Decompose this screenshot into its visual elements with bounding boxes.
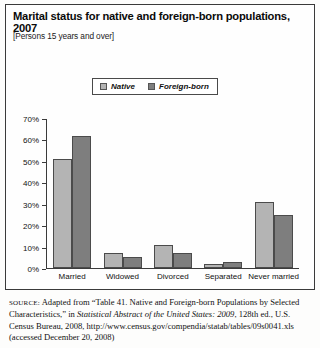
legend-label-foreign-born: Foreign-born [159, 82, 209, 91]
y-axis-tick-label: 0% [27, 265, 39, 274]
y-axis-tick-mark [42, 226, 46, 227]
bar-group [198, 119, 248, 268]
legend-swatch-icon [148, 83, 155, 90]
bar-married-native[interactable] [53, 159, 72, 268]
x-axis-label-never-married: Never married [248, 272, 299, 281]
legend-item-native: Native [100, 82, 135, 91]
bar-separated-native[interactable] [204, 264, 223, 268]
figure-subtitle: [Persons 15 years and over] [13, 31, 114, 41]
bar-divorced-foreign-born[interactable] [173, 253, 192, 268]
bar-series-container [47, 119, 299, 268]
y-axis-tick-mark [42, 205, 46, 206]
bar-group [249, 119, 299, 268]
chart-plot-area: 70%60%50%40%30%20%10%0% [46, 119, 299, 269]
legend-swatch-icon [100, 83, 107, 90]
y-axis-tick-label: 40% [23, 179, 39, 188]
y-axis-tick-mark [42, 183, 46, 184]
x-axis-label-widowed: Widowed [97, 272, 147, 281]
y-axis-tick-mark [42, 119, 46, 120]
bar-never-married-foreign-born[interactable] [274, 215, 293, 268]
y-axis-tick-label: 70% [23, 115, 39, 124]
source-note: SOURCE: Adapted from “Table 41. Native a… [9, 297, 311, 344]
bar-married-foreign-born[interactable] [72, 136, 91, 268]
legend-item-foreign-born: Foreign-born [148, 82, 209, 91]
figure-page: Marital status for native and foreign-bo… [0, 0, 320, 348]
chart-legend: Native Foreign-born [92, 78, 218, 95]
bar-never-married-native[interactable] [255, 202, 274, 268]
source-label: SOURCE: [9, 299, 40, 307]
bar-group [148, 119, 198, 268]
x-axis-label-separated: Separated [198, 272, 248, 281]
bar-divorced-native[interactable] [154, 245, 173, 268]
y-axis-tick-label: 10% [23, 243, 39, 252]
y-axis-tick-label: 30% [23, 200, 39, 209]
y-axis-tick-label: 50% [23, 157, 39, 166]
source-italic-title: Statistical Abstract of the United State… [77, 309, 234, 319]
x-axis-label-married: Married [47, 272, 97, 281]
bar-widowed-foreign-born[interactable] [123, 257, 142, 268]
y-axis-tick-mark [42, 140, 46, 141]
bar-group [47, 119, 97, 268]
bar-separated-foreign-born[interactable] [223, 262, 242, 268]
bar-widowed-native[interactable] [104, 253, 123, 268]
y-axis-tick-label: 20% [23, 222, 39, 231]
x-axis-labels: MarriedWidowedDivorcedSeparatedNever mar… [47, 272, 299, 281]
y-axis-tick-mark [42, 248, 46, 249]
x-axis [46, 268, 299, 269]
x-axis-label-divorced: Divorced [148, 272, 198, 281]
legend-label-native: Native [111, 82, 135, 91]
y-axis-tick-mark [42, 269, 46, 270]
y-axis-tick-label: 60% [23, 136, 39, 145]
bar-group [97, 119, 147, 268]
y-axis-tick-mark [42, 162, 46, 163]
